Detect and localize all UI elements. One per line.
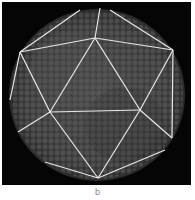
capsid-body (9, 9, 185, 181)
capsid-svg (2, 2, 191, 185)
panel-label: b (0, 187, 195, 197)
capsid-image (2, 2, 191, 185)
